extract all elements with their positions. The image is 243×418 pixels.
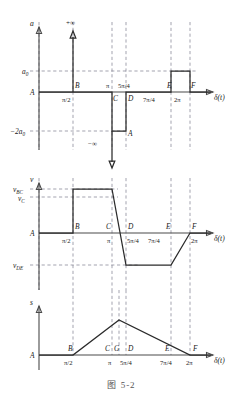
point-label-D-disp: D: [127, 344, 134, 353]
acceleration-xaxis-name: δ(t): [214, 93, 225, 102]
impulse-down-arrow-icon: [109, 161, 115, 168]
displacement-curve: [39, 320, 211, 355]
tick-pi-acc: π: [106, 82, 110, 89]
tick-pi-over-2-disp: π/2: [64, 359, 72, 366]
point-label-C-vel: C: [106, 222, 111, 231]
point-label-A-disp: A: [29, 351, 35, 360]
point-label-A-acc: A: [29, 88, 35, 97]
guide-lines-velocity: [39, 178, 190, 290]
tick-5pi-over-4-disp: 5π/4: [120, 359, 132, 366]
point-label-G-disp: G: [114, 344, 120, 353]
tick-pi-vel: π: [107, 237, 111, 244]
tick-7pi-over-4-disp: 7π/4: [160, 359, 172, 366]
velocity-curve: [39, 189, 211, 265]
kinematic-diagram-svg: +∞ −∞ a δ(t) a0 −2a0 A B C D E F A π/2 π…: [0, 0, 243, 378]
point-label-B-disp: B: [68, 344, 73, 353]
tick-pi-disp: π: [108, 359, 112, 366]
point-label-B-vel: B: [75, 222, 80, 231]
tick-5pi-over-4-acc: 5π/4: [118, 82, 130, 89]
tick-2pi-acc: 2π: [174, 96, 181, 103]
figure-caption: 图 5-2: [0, 378, 243, 391]
tick-2pi-vel: 2π: [191, 237, 198, 244]
velocity-axis-name: v: [30, 175, 34, 184]
point-label-A2-acc: A: [127, 129, 133, 138]
label-plus-infinity: +∞: [66, 19, 75, 27]
acceleration-axis-name: a: [30, 19, 34, 28]
label-minus-infinity: −∞: [88, 140, 97, 148]
displacement-axis-name: s: [30, 298, 33, 307]
panel-acceleration: +∞ −∞ a δ(t) a0 −2a0 A B C D E F A π/2 π…: [10, 19, 225, 168]
label-vDE: vDE: [13, 261, 24, 271]
point-label-E-vel: E: [165, 222, 171, 231]
tick-7pi-over-4-vel: 7π/4: [148, 237, 160, 244]
label-neg-2a0: −2a0: [10, 127, 25, 137]
figure-5-2: +∞ −∞ a δ(t) a0 −2a0 A B C D E F A π/2 π…: [0, 0, 243, 418]
point-label-E-disp: E: [164, 344, 170, 353]
tick-2pi-disp: 2π: [186, 359, 193, 366]
point-label-F-disp: F: [192, 344, 198, 353]
velocity-xaxis-name: δ(t): [214, 234, 225, 243]
tick-pi-over-2-acc: π/2: [62, 96, 70, 103]
tick-7pi-over-4-acc: 7π/4: [143, 96, 155, 103]
point-label-F-acc: F: [190, 81, 196, 90]
point-label-C-acc: C: [113, 94, 118, 103]
label-a0: a0: [22, 67, 29, 77]
label-vC: vC: [18, 194, 25, 204]
displacement-xaxis-name: δ(t): [214, 356, 225, 365]
point-label-C-disp: C: [105, 344, 110, 353]
point-label-B-acc: B: [75, 81, 80, 90]
point-label-D-acc: D: [127, 94, 134, 103]
point-label-E-acc: E: [166, 81, 172, 90]
tick-5pi-over-4-vel: 5π/4: [127, 237, 139, 244]
panel-displacement: s δ(t) A B C G D E F π/2 π 5π/4 7π/4 2π: [29, 290, 225, 370]
panel-velocity: v δ(t) vBC vC vDE A B C D E F π/2 π 5π/4…: [13, 175, 225, 290]
tick-pi-over-2-vel: π/2: [62, 237, 70, 244]
point-label-F-vel: F: [191, 222, 197, 231]
point-label-A-vel: A: [29, 229, 35, 238]
point-label-D-vel: D: [127, 222, 134, 231]
